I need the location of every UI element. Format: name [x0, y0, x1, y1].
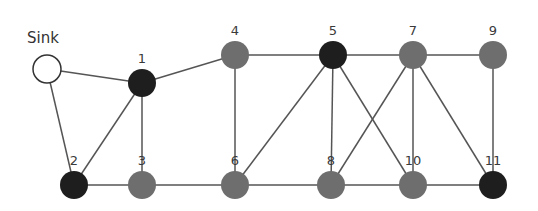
node-3	[128, 171, 156, 199]
edges-layer	[47, 55, 493, 185]
node-label-9: 9	[489, 23, 497, 38]
sink-label: Sink	[27, 29, 59, 47]
edge-1-2	[74, 83, 142, 185]
node-11	[479, 171, 507, 199]
node-label-7: 7	[409, 23, 417, 38]
edge-7-11	[413, 55, 493, 185]
node-5	[319, 41, 347, 69]
node-label-10: 10	[405, 153, 422, 168]
node-1	[128, 69, 156, 97]
node-label-6: 6	[231, 153, 239, 168]
edge-1-4	[142, 55, 235, 83]
edge-5-6	[235, 55, 333, 185]
node-7	[399, 41, 427, 69]
node-label-3: 3	[138, 153, 146, 168]
node-2	[60, 171, 88, 199]
network-diagram: Sink1234567891011	[0, 0, 538, 211]
node-9	[479, 41, 507, 69]
nodes-layer	[33, 41, 507, 199]
node-label-5: 5	[329, 23, 337, 38]
node-label-8: 8	[327, 153, 335, 168]
node-6	[221, 171, 249, 199]
node-4	[221, 41, 249, 69]
node-label-11: 11	[485, 153, 502, 168]
node-label-2: 2	[70, 153, 78, 168]
node-label-1: 1	[138, 51, 146, 66]
node-8	[317, 171, 345, 199]
node-10	[399, 171, 427, 199]
node-label-4: 4	[231, 23, 239, 38]
sink-node	[33, 55, 61, 83]
